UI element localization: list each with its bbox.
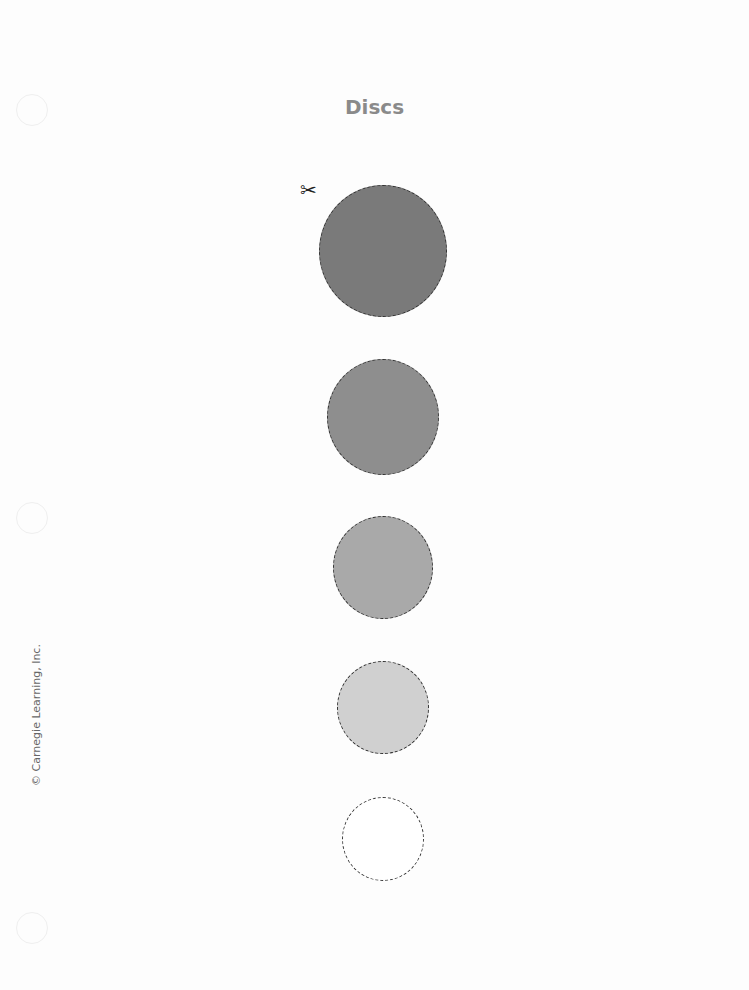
page-title: Discs (0, 95, 749, 119)
disc-medium (333, 516, 433, 619)
scissors-icon: ✂ (300, 178, 317, 202)
disc-smallest (342, 797, 424, 881)
binder-hole-bottom (16, 912, 48, 944)
copyright-text: © Carnegie Learning, Inc. (30, 644, 43, 786)
binder-hole-middle (16, 502, 48, 534)
disc-large (327, 359, 439, 475)
disc-small (337, 661, 429, 754)
disc-largest (319, 185, 447, 317)
